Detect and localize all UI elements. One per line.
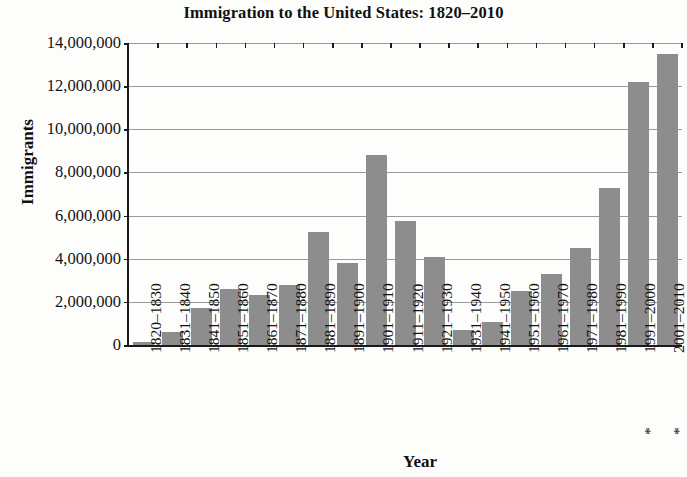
x-axis-tick-label: 1961–1970	[555, 283, 571, 353]
x-axis-tick-mark	[681, 43, 683, 48]
y-axis-tick-mark	[124, 86, 129, 88]
x-axis-tick-mark	[507, 43, 509, 48]
y-axis-tick-mark	[124, 172, 129, 174]
x-axis-tick-label: 1871–1880	[293, 283, 309, 353]
y-axis-tick-label: 2,000,000	[1, 294, 121, 311]
x-axis-tick-label: 1991–2000	[642, 283, 658, 353]
x-axis-tick-mark	[419, 43, 421, 48]
x-axis-tick-mark	[623, 43, 625, 48]
x-axis-tick-label: 1851–1860	[235, 283, 251, 353]
immigration-bar-chart-figure: Immigration to the United States: 1820–2…	[0, 0, 687, 477]
chart-title: Immigration to the United States: 1820–2…	[0, 3, 687, 23]
x-axis-tick-mark	[477, 43, 479, 48]
x-axis-tick-mark	[332, 43, 334, 48]
x-axis-label-footnote-marker: *	[671, 427, 687, 435]
y-axis-tick-label: 6,000,000	[1, 208, 121, 225]
x-axis-tick-label: 1881–1890	[322, 283, 338, 353]
x-axis-tick-mark	[216, 43, 218, 48]
x-axis-tick-label: 1891–1900	[351, 283, 367, 353]
y-axis-tick-mark	[124, 345, 129, 347]
x-axis-tick-mark	[245, 43, 247, 48]
y-axis-tick-mark	[124, 302, 129, 304]
x-axis-tick-mark	[303, 43, 305, 48]
x-axis-tick-mark	[565, 43, 567, 48]
x-axis-tick-label: 1820–1830	[148, 283, 164, 353]
x-axis-tick-label: 1861–1870	[264, 283, 280, 353]
x-axis-tick-label: 1931–1940	[468, 283, 484, 353]
x-axis-tick-label: 1911–1920	[410, 284, 426, 353]
x-axis-tick-mark	[361, 43, 363, 48]
y-axis-tick-mark	[124, 216, 129, 218]
x-axis-tick-mark	[652, 43, 654, 48]
x-axis-tick-mark	[186, 43, 188, 48]
y-axis-tick-label: 10,000,000	[1, 121, 121, 138]
x-axis-title: Year	[330, 452, 510, 472]
x-axis-label-footnote-marker: *	[642, 427, 658, 435]
y-axis-tick-label: 4,000,000	[1, 251, 121, 268]
gridline	[129, 86, 682, 87]
x-axis-tick-label: 1971–1980	[584, 283, 600, 353]
x-axis-tick-mark	[536, 43, 538, 48]
x-axis-tick-label: 1831–1840	[177, 283, 193, 353]
x-axis-tick-mark	[448, 43, 450, 48]
x-axis-tick-label: 1981–1990	[613, 283, 629, 353]
x-axis-tick-mark	[594, 43, 596, 48]
gridline	[129, 172, 682, 173]
x-axis-tick-mark	[390, 43, 392, 48]
x-axis-tick-mark	[274, 43, 276, 48]
y-axis-tick-mark	[124, 129, 129, 131]
x-axis-tick-mark	[157, 43, 159, 48]
y-axis-tick-label: 8,000,000	[1, 164, 121, 181]
y-axis-tick-mark	[124, 259, 129, 261]
gridline	[129, 43, 682, 44]
x-axis-tick-label: 1921–1930	[439, 283, 455, 353]
y-axis-tick-label: 14,000,000	[1, 35, 121, 52]
x-axis-tick-label: 1901–1910	[380, 283, 396, 353]
x-axis-tick-label: 1841–1850	[206, 283, 222, 353]
x-axis-tick-label: 2001–2010	[671, 283, 687, 353]
y-axis-tick-label: 12,000,000	[1, 78, 121, 95]
x-axis-tick-label: 1941–1950	[497, 283, 513, 353]
y-axis-tick-mark	[124, 43, 129, 45]
x-axis-tick-label: 1951–1960	[526, 283, 542, 353]
gridline	[129, 129, 682, 130]
y-axis-tick-label: 0	[1, 337, 121, 354]
